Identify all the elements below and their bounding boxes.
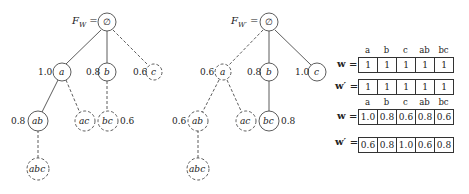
right-node-abc: abc xyxy=(189,164,205,174)
cell: 1 xyxy=(377,57,397,73)
cell: 0.6 xyxy=(415,137,435,153)
header-a: a xyxy=(358,45,377,55)
header-ab: ab xyxy=(415,97,434,107)
right-weight-a: 0.6 xyxy=(200,67,214,77)
cell: 0.8 xyxy=(415,109,435,125)
right-root-label: FW′ = xyxy=(231,15,258,29)
right-weight-b: 0.8 xyxy=(247,67,261,77)
left-weight-bc: 0.6 xyxy=(120,116,134,126)
left-weight-c: 0.6 xyxy=(133,67,147,77)
cell: 0.6 xyxy=(358,137,378,153)
table1-header: a b c ab bc xyxy=(358,45,453,55)
right-weight-bc: 0.8 xyxy=(281,116,295,126)
left-root-label: FW = xyxy=(72,15,98,29)
left-node-abc: abc xyxy=(29,164,45,174)
right-node-c: c xyxy=(314,67,319,77)
header-b: b xyxy=(377,45,396,55)
header-ab: ab xyxy=(415,45,434,55)
cell: 1 xyxy=(396,57,416,73)
cell: 0.8 xyxy=(434,137,454,153)
cell: 0.6 xyxy=(434,109,454,125)
table1-row-w-prime: 1 1 1 1 1 xyxy=(358,79,454,95)
right-node-bc: bc xyxy=(263,116,274,126)
table1-row-w: 1 1 1 1 1 xyxy=(358,57,454,73)
cell: 1.0 xyxy=(358,109,378,125)
cell: 1.0 xyxy=(396,137,416,153)
cell: 1 xyxy=(434,79,454,95)
left-weight-a: 1.0 xyxy=(38,67,52,77)
left-root-node: ∅ xyxy=(103,17,111,27)
right-weight-ab: 0.6 xyxy=(172,116,186,126)
cell: 1 xyxy=(415,79,435,95)
left-node-a: a xyxy=(59,67,64,77)
table1-row-w-prime-label: w′ = xyxy=(335,80,358,91)
cell: 1 xyxy=(396,79,416,95)
left-node-ac: ac xyxy=(79,116,89,126)
left-node-bc: bc xyxy=(102,116,113,126)
cell: 0.8 xyxy=(377,109,397,125)
right-node-b: b xyxy=(266,67,272,77)
right-node-a: a xyxy=(220,67,225,77)
table2-row-w-prime-label: w′ = xyxy=(335,136,358,147)
left-weight-b: 0.8 xyxy=(86,67,100,77)
header-bc: bc xyxy=(434,97,453,107)
header-c: c xyxy=(396,45,415,55)
table2-row-w-prime: 0.6 0.8 1.0 0.6 0.8 xyxy=(358,137,454,153)
table1-row-w-label: w = xyxy=(337,58,357,69)
cell: 0.6 xyxy=(396,109,416,125)
table2-row-w-label: w = xyxy=(337,110,357,121)
cell: 1 xyxy=(377,79,397,95)
cell: 1 xyxy=(358,57,378,73)
table2-row-w: 1.0 0.8 0.6 0.8 0.6 xyxy=(358,109,454,125)
header-c: c xyxy=(396,97,415,107)
left-weight-ab: 0.8 xyxy=(11,116,25,126)
header-b: b xyxy=(377,97,396,107)
table2-header: a b c ab bc xyxy=(358,97,453,107)
right-node-ab: ab xyxy=(192,116,203,126)
left-node-c: c xyxy=(151,67,156,77)
cell: 0.8 xyxy=(377,137,397,153)
right-node-ac: ac xyxy=(240,116,250,126)
cell: 1 xyxy=(415,57,435,73)
cell: 1 xyxy=(358,79,378,95)
right-root-node: ∅ xyxy=(265,17,273,27)
cell: 1 xyxy=(434,57,454,73)
left-node-ab: ab xyxy=(32,116,43,126)
right-weight-c: 1.0 xyxy=(295,67,309,77)
header-bc: bc xyxy=(434,45,453,55)
header-a: a xyxy=(358,97,377,107)
left-node-b: b xyxy=(104,67,110,77)
